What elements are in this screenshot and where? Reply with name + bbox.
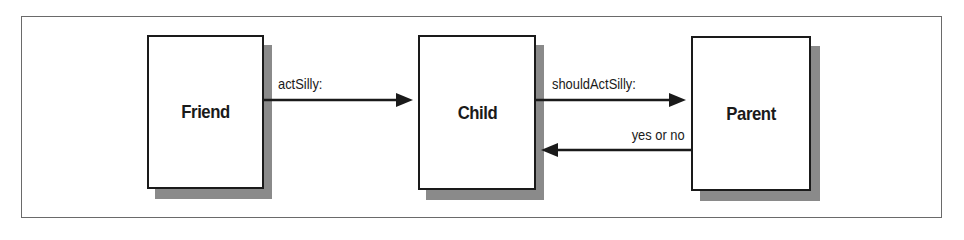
friend-label: Friend (181, 101, 229, 123)
child-node: Child (418, 35, 536, 190)
message-actsilly: actSilly: (278, 75, 322, 92)
friend-node: Friend (147, 35, 264, 189)
message-shouldactsilly: shouldActSilly: (552, 75, 636, 92)
parent-label: Parent (726, 103, 775, 125)
arrow-parent-to-child (541, 142, 692, 158)
message-yes-or-no: yes or no (632, 126, 685, 143)
parent-node: Parent (691, 36, 811, 191)
arrow-child-to-parent (536, 92, 688, 108)
arrow-friend-to-child (263, 92, 415, 108)
child-label: Child (457, 102, 497, 124)
